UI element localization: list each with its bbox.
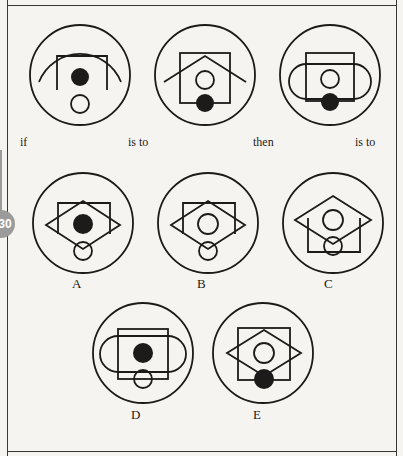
option-a-figure[interactable]	[28, 168, 138, 278]
page-number-badge: 30	[0, 210, 15, 238]
option-e-figure[interactable]	[208, 298, 318, 408]
prompt-figure-1	[25, 20, 135, 130]
filled-dot	[321, 93, 339, 111]
open-circle	[321, 70, 339, 88]
option-e-label: E	[253, 408, 261, 421]
page-badge-stem	[0, 150, 2, 212]
prompt-figure-2	[150, 20, 260, 130]
open-circle	[254, 343, 274, 363]
filled-dot	[71, 68, 89, 86]
open-circle-lower	[199, 242, 217, 260]
option-b-label: B	[197, 277, 206, 290]
open-circle-center	[198, 214, 218, 234]
option-c-figure[interactable]	[278, 168, 388, 278]
option-b-figure[interactable]	[153, 168, 263, 278]
open-circle	[71, 95, 89, 113]
open-circle	[74, 242, 92, 260]
connector-is-to-2: is to	[355, 136, 375, 148]
open-bottom-rectangle	[183, 203, 235, 234]
connector-then: then	[253, 136, 274, 148]
page-rule-right	[396, 0, 397, 456]
open-top-rectangle	[308, 218, 360, 252]
filled-dot	[73, 214, 93, 234]
filled-dot	[254, 369, 274, 389]
option-d-label: D	[131, 408, 140, 421]
roof-chevron	[164, 56, 246, 82]
page-rule-bottom	[7, 451, 397, 452]
prompt-figure-3	[275, 20, 385, 130]
connector-is-to-1: is to	[128, 136, 148, 148]
outer-circle	[283, 173, 383, 273]
option-a-label: A	[72, 277, 81, 290]
filled-dot	[133, 343, 153, 363]
filled-dot	[196, 94, 214, 112]
option-c-label: C	[324, 277, 333, 290]
option-d-figure[interactable]	[88, 298, 198, 408]
connector-if: if	[20, 136, 27, 148]
puzzle-page: 30 if is to then is	[0, 0, 403, 456]
page-rule-top	[7, 5, 397, 6]
open-circle	[196, 71, 214, 89]
open-circle-center	[323, 210, 343, 230]
